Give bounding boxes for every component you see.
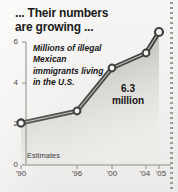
- x-axis-ticks: [21, 165, 159, 169]
- x-tick-label-1996: '96: [66, 170, 88, 178]
- y-tick-label-6: 6: [8, 38, 18, 46]
- dotted-rule-icon: [170, 2, 173, 190]
- y-tick-label-4: 4: [8, 79, 18, 87]
- x-tick-label-2000: '00: [101, 170, 123, 178]
- chart-figure: ... Their numbers are growing ...: [0, 0, 178, 192]
- value-callout: 6.3 million: [98, 83, 158, 107]
- y-tick-label-2: 2: [8, 120, 18, 128]
- y-tick-label-0: 0: [8, 161, 18, 169]
- x-tick-label-2005: '05: [150, 170, 172, 178]
- estimates-note: Estimates: [27, 151, 60, 160]
- series-description: Millions of illegal Mexican immigrants l…: [33, 43, 105, 89]
- x-tick-label-1990: '90: [10, 170, 32, 178]
